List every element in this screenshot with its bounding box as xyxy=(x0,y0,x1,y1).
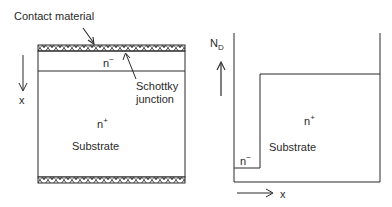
nd-axis-label-base: N xyxy=(210,37,218,49)
n-minus-region-sup: − xyxy=(246,153,251,162)
schottky-pointer-arrow xyxy=(123,53,136,79)
n-plus-region-sup: + xyxy=(310,113,315,122)
n-minus-layer-label-sup: − xyxy=(109,55,114,64)
device-body xyxy=(38,51,185,177)
substrate-label-left: Substrate xyxy=(72,140,119,152)
nd-axis-up-arrow-icon xyxy=(217,62,225,96)
schottky-label-line2: junction xyxy=(136,93,178,106)
x-axis-label-left: x xyxy=(19,94,25,106)
x-axis-down-arrow-icon xyxy=(19,55,27,91)
x-axis-right-arrow-icon xyxy=(237,189,273,197)
top-contact-layer xyxy=(38,45,185,51)
nd-axis-label-sub: D xyxy=(218,43,224,52)
nd-axis-label: ND xyxy=(210,37,224,49)
schottky-label-line1: Schottky xyxy=(136,80,178,93)
x-axis-label-right: x xyxy=(280,188,286,200)
n-plus-substrate-label: n+ xyxy=(97,118,108,130)
n-plus-region-label: n+ xyxy=(304,115,315,127)
schottky-junction-label: Schottky junction xyxy=(136,80,178,106)
n-plus-label-sup: + xyxy=(103,116,108,125)
n-minus-layer-label: n− xyxy=(103,57,114,69)
contact-pointer-arrow xyxy=(83,28,94,44)
contact-material-label: Contact material xyxy=(14,10,94,22)
diagram-canvas xyxy=(0,0,392,207)
doping-profile-plot xyxy=(217,33,380,197)
bottom-contact-layer xyxy=(38,177,185,183)
substrate-label-right: Substrate xyxy=(269,141,316,153)
n-minus-region-label: n− xyxy=(240,155,251,167)
